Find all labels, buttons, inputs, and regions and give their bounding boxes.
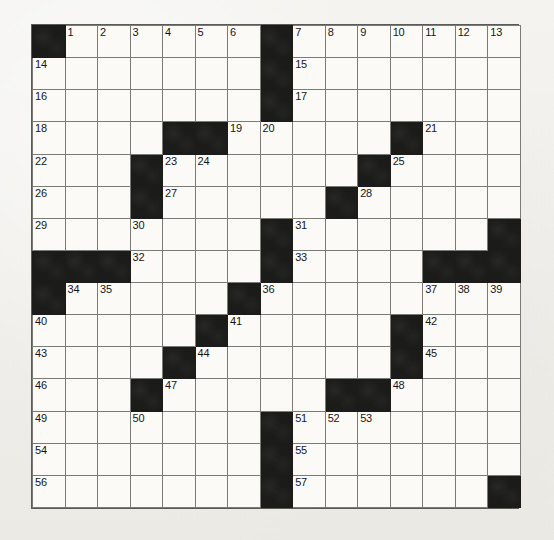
letter-cell[interactable] (455, 58, 488, 90)
letter-cell[interactable] (98, 58, 131, 90)
letter-cell[interactable] (455, 90, 488, 122)
letter-cell[interactable] (488, 58, 521, 90)
letter-cell[interactable]: 3 (130, 26, 163, 58)
letter-cell[interactable] (488, 186, 521, 218)
letter-cell[interactable]: 10 (390, 26, 423, 58)
letter-cell[interactable] (423, 475, 456, 507)
letter-cell[interactable] (195, 411, 228, 443)
letter-cell[interactable] (325, 347, 358, 379)
letter-cell[interactable]: 17 (293, 90, 326, 122)
letter-cell[interactable] (163, 315, 196, 347)
letter-cell[interactable] (65, 90, 98, 122)
letter-cell[interactable] (390, 443, 423, 475)
letter-cell[interactable]: 48 (390, 379, 423, 411)
letter-cell[interactable] (98, 411, 131, 443)
letter-cell[interactable]: 38 (455, 283, 488, 315)
letter-cell[interactable]: 2 (98, 26, 131, 58)
letter-cell[interactable] (98, 122, 131, 154)
letter-cell[interactable] (130, 283, 163, 315)
letter-cell[interactable]: 23 (163, 154, 196, 186)
letter-cell[interactable] (163, 58, 196, 90)
letter-cell[interactable] (423, 154, 456, 186)
letter-cell[interactable]: 19 (228, 122, 261, 154)
letter-cell[interactable] (260, 315, 293, 347)
letter-cell[interactable] (293, 315, 326, 347)
letter-cell[interactable]: 14 (33, 58, 66, 90)
letter-cell[interactable]: 49 (33, 411, 66, 443)
letter-cell[interactable] (293, 379, 326, 411)
letter-cell[interactable] (390, 411, 423, 443)
letter-cell[interactable] (98, 154, 131, 186)
letter-cell[interactable] (455, 154, 488, 186)
letter-cell[interactable] (130, 347, 163, 379)
letter-cell[interactable] (455, 122, 488, 154)
letter-cell[interactable] (488, 411, 521, 443)
letter-cell[interactable]: 5 (195, 26, 228, 58)
letter-cell[interactable] (358, 58, 391, 90)
letter-cell[interactable] (260, 186, 293, 218)
letter-cell[interactable] (293, 347, 326, 379)
letter-cell[interactable] (488, 154, 521, 186)
letter-cell[interactable] (98, 186, 131, 218)
letter-cell[interactable] (98, 475, 131, 507)
letter-cell[interactable] (488, 443, 521, 475)
letter-cell[interactable]: 25 (390, 154, 423, 186)
letter-cell[interactable] (195, 283, 228, 315)
letter-cell[interactable]: 44 (195, 347, 228, 379)
letter-cell[interactable] (358, 250, 391, 282)
letter-cell[interactable]: 28 (358, 186, 391, 218)
letter-cell[interactable]: 54 (33, 443, 66, 475)
letter-cell[interactable]: 29 (33, 218, 66, 250)
letter-cell[interactable] (325, 218, 358, 250)
letter-cell[interactable]: 27 (163, 186, 196, 218)
letter-cell[interactable] (228, 347, 261, 379)
letter-cell[interactable] (65, 475, 98, 507)
letter-cell[interactable] (130, 475, 163, 507)
letter-cell[interactable] (325, 250, 358, 282)
letter-cell[interactable]: 8 (325, 26, 358, 58)
letter-cell[interactable]: 43 (33, 347, 66, 379)
letter-cell[interactable] (260, 347, 293, 379)
letter-cell[interactable] (390, 90, 423, 122)
letter-cell[interactable] (195, 379, 228, 411)
letter-cell[interactable] (65, 218, 98, 250)
letter-cell[interactable] (455, 347, 488, 379)
letter-cell[interactable] (163, 411, 196, 443)
letter-cell[interactable]: 33 (293, 250, 326, 282)
letter-cell[interactable] (325, 122, 358, 154)
letter-cell[interactable] (455, 379, 488, 411)
letter-cell[interactable]: 24 (195, 154, 228, 186)
letter-cell[interactable]: 30 (130, 218, 163, 250)
letter-cell[interactable] (163, 443, 196, 475)
letter-cell[interactable] (65, 122, 98, 154)
letter-cell[interactable] (325, 315, 358, 347)
letter-cell[interactable]: 39 (488, 283, 521, 315)
letter-cell[interactable] (98, 443, 131, 475)
letter-cell[interactable]: 9 (358, 26, 391, 58)
letter-cell[interactable] (390, 186, 423, 218)
letter-cell[interactable]: 40 (33, 315, 66, 347)
letter-cell[interactable]: 7 (293, 26, 326, 58)
letter-cell[interactable] (195, 218, 228, 250)
letter-cell[interactable] (325, 283, 358, 315)
letter-cell[interactable]: 52 (325, 411, 358, 443)
letter-cell[interactable] (130, 90, 163, 122)
letter-cell[interactable]: 26 (33, 186, 66, 218)
letter-cell[interactable] (98, 379, 131, 411)
letter-cell[interactable] (65, 315, 98, 347)
letter-cell[interactable]: 57 (293, 475, 326, 507)
crossword-grid[interactable]: 1234567891011121314151617181920212223242… (31, 24, 519, 509)
letter-cell[interactable] (163, 250, 196, 282)
letter-cell[interactable] (358, 315, 391, 347)
letter-cell[interactable]: 6 (228, 26, 261, 58)
letter-cell[interactable] (228, 154, 261, 186)
letter-cell[interactable] (358, 475, 391, 507)
letter-cell[interactable] (325, 90, 358, 122)
letter-cell[interactable] (228, 475, 261, 507)
letter-cell[interactable] (358, 283, 391, 315)
letter-cell[interactable] (488, 315, 521, 347)
letter-cell[interactable] (98, 315, 131, 347)
letter-cell[interactable] (325, 443, 358, 475)
letter-cell[interactable] (293, 186, 326, 218)
letter-cell[interactable] (358, 90, 391, 122)
